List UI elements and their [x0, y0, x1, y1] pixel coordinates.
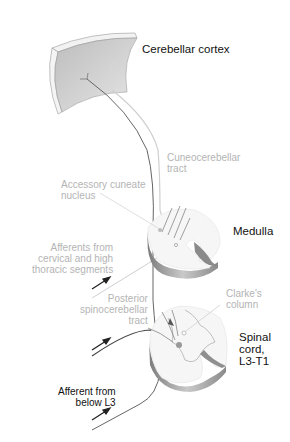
- cerebellar-cortex-shape: [50, 33, 137, 114]
- diagram-canvas: [0, 0, 290, 442]
- label-medulla: Medulla: [233, 225, 273, 237]
- label-afferents-cervical: Afferents from cervical and high thoraci…: [32, 242, 113, 275]
- label-cuneocerebellar-tract: Cuneocerebellar tract: [167, 152, 240, 174]
- label-accessory-cuneate-nucleus: Accessory cuneate nucleus: [61, 179, 146, 201]
- label-cerebellar-cortex: Cerebellar cortex: [142, 43, 230, 55]
- label-clarkes-column: Clarke's column: [226, 288, 262, 310]
- label-posterior-spinocerebellar-tract: Posterior spinocerebellar tract: [80, 293, 148, 326]
- spinal-cord-shape: [148, 305, 227, 392]
- label-spinal-cord: Spinal cord, L3-T1: [239, 331, 271, 367]
- label-afferent-below-l3: Afferent from below L3: [58, 386, 116, 408]
- medulla-shape: [147, 206, 220, 279]
